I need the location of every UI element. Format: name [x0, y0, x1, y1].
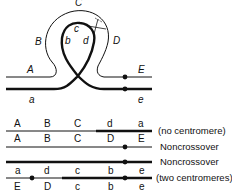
caption-two-centromeres: (two centromeres) — [156, 173, 232, 183]
centromere-product-4a — [30, 176, 35, 181]
p1-label-3: d — [107, 119, 113, 129]
p3-label-3: b — [108, 166, 114, 176]
p4-label-1: D — [44, 182, 51, 191]
p2-label-3: D — [107, 134, 114, 144]
p3-label-1: d — [44, 166, 50, 176]
p3-label-0: a — [15, 166, 21, 176]
outer-label-d: D — [113, 36, 120, 46]
centromere-outer — [123, 75, 128, 80]
p4-label-3: b — [108, 182, 114, 191]
inner-label-a: a — [29, 95, 35, 105]
inner-label-e: e — [138, 95, 144, 105]
inner-chromatid-path — [6, 23, 152, 89]
p1-label-0: A — [14, 119, 21, 129]
crossover-mark — [94, 19, 98, 34]
p3-label-4: e — [139, 166, 145, 176]
caption-no-centromere: (no centromere) — [158, 126, 226, 136]
p2-label-4: E — [138, 134, 145, 144]
p2-label-1: B — [44, 134, 51, 144]
inner-label-c: c — [74, 24, 79, 34]
p2-label-2: C — [74, 134, 81, 144]
centromere-product-3 — [123, 160, 128, 165]
centromere-product-4b — [123, 176, 128, 181]
outer-label-a: A — [27, 65, 34, 75]
outer-label-e: E — [138, 65, 145, 75]
caption-noncrossover-1: Noncrossover — [160, 142, 219, 152]
centromere-product-2 — [123, 145, 128, 150]
caption-noncrossover-2: Noncrossover — [160, 157, 219, 167]
p1-label-1: B — [44, 119, 51, 129]
inner-label-d: d — [83, 36, 89, 46]
inner-label-b: b — [65, 36, 71, 46]
outer-label-c: C — [75, 0, 82, 8]
p4-label-2: c — [75, 182, 80, 191]
outer-label-b: B — [35, 37, 42, 47]
centromere-inner — [123, 87, 128, 92]
p4-label-4: e — [139, 182, 145, 191]
p3-label-2: c — [75, 166, 80, 176]
p1-label-4: a — [138, 119, 144, 129]
p4-label-0: E — [14, 182, 21, 191]
p2-label-0: A — [14, 134, 21, 144]
p1-label-2: C — [74, 119, 81, 129]
